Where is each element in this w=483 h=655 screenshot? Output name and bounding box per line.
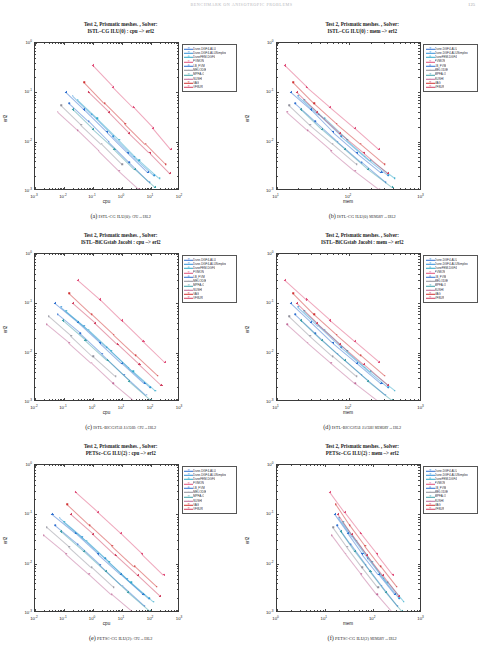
legend-item[interactable]: +VF8UR [184, 85, 234, 89]
x-tick-label: 101 [118, 404, 125, 410]
data-point [113, 587, 115, 589]
trend-line [133, 107, 153, 128]
y-tick-label: 10-2 [14, 137, 32, 143]
plot-area-d [276, 253, 421, 401]
data-point [378, 587, 380, 589]
plot-area-f [276, 464, 421, 612]
data-point [92, 533, 94, 535]
trend-line [90, 525, 113, 546]
data-point [149, 152, 151, 154]
y-tick-right [176, 303, 178, 304]
data-point [384, 375, 386, 377]
trend-line [131, 582, 154, 602]
x-tick-label: 102 [345, 193, 352, 199]
trend-line [134, 566, 156, 587]
data-point [97, 511, 99, 513]
data-point [354, 340, 356, 342]
y-tick-right [418, 564, 420, 565]
caption-text: ISTL-BiCGstab Jacobi memory→erl2 [330, 425, 401, 430]
legend-item[interactable]: +VF8UR [426, 85, 476, 89]
data-point [43, 534, 45, 536]
data-point [336, 525, 338, 527]
caption-tag: (e) [89, 634, 96, 641]
data-point [300, 108, 302, 110]
x-tick-label: 102 [176, 193, 183, 199]
y-tick-right [176, 465, 178, 466]
legend-item[interactable]: +VF8UR [184, 507, 234, 511]
y-tick-right [176, 514, 178, 515]
legend-item-label: VF8UR [193, 507, 203, 511]
data-point [331, 362, 333, 364]
y-tick-label: 100 [14, 39, 32, 45]
panel-title-e: Test 2, Prismatic meshes. , Solver:PETSc… [0, 443, 242, 458]
y-tick-label: 100 [14, 250, 32, 256]
data-point [332, 131, 334, 133]
caption-text: ISTL-CG ILU(0) memory→erl2 [336, 214, 396, 219]
x-tick [349, 187, 350, 189]
y-tick [35, 353, 37, 354]
y-tick-label: 10-2 [256, 137, 274, 143]
plot-area-a [34, 42, 179, 190]
y-tick-label: 10-3 [256, 398, 274, 404]
data-point [332, 143, 334, 145]
x-tick-top [373, 465, 374, 467]
y-tick-label: 100 [256, 250, 274, 256]
trend-line [46, 324, 69, 343]
data-point [367, 380, 369, 382]
x-tick [93, 398, 94, 400]
data-point [128, 380, 130, 382]
y-tick-right [418, 43, 420, 44]
legend-symbol: + [429, 86, 432, 89]
x-tick [151, 187, 152, 189]
data-point [361, 573, 363, 575]
data-point [128, 132, 130, 134]
legend-item[interactable]: +VF8UR [426, 296, 476, 300]
figure-caption-b: (b) ISTL-CG ILU(0) memory→erl2 [242, 212, 483, 219]
x-tick-label: 101 [118, 615, 125, 621]
trend-line [100, 299, 122, 320]
y-tick [35, 254, 37, 255]
data-point [152, 127, 154, 129]
legend-item[interactable]: +VF8UR [184, 296, 234, 300]
data-point [401, 610, 403, 612]
plot-legend-a: +Dune-DGF4-ALU+Dune-DGF4-ALUSimplexxDune… [182, 44, 237, 92]
legend-marker-icon: + [426, 85, 435, 89]
data-point [289, 315, 291, 317]
data-point [151, 399, 153, 401]
x-tick-top [64, 43, 65, 45]
y-tick [35, 303, 37, 304]
data-point [57, 111, 59, 113]
y-tick [277, 142, 279, 143]
data-point [378, 361, 380, 363]
data-point [284, 64, 286, 66]
y-tick-right [418, 465, 420, 466]
data-point [112, 86, 114, 88]
legend-item[interactable]: +VF8UR [426, 507, 476, 511]
trend-line [78, 130, 99, 151]
panel-title-line2: PETSc–CG ILU(2) : cpu –> erl2 [0, 450, 242, 457]
data-point [321, 128, 323, 130]
running-head: BENCHMARK ON ANISOTROPIC PROBLEMS [0, 2, 483, 7]
y-tick-right [418, 254, 420, 255]
x-tick [122, 187, 123, 189]
panel-title-line1: Test 2, Prismatic meshes. , Solver: [84, 21, 158, 27]
x-tick-label: 10-1 [59, 615, 67, 621]
data-point [290, 91, 292, 93]
data-point [77, 99, 79, 101]
data-point [68, 293, 70, 295]
x-tick-top [122, 43, 123, 45]
data-point [111, 593, 113, 595]
data-point [88, 329, 90, 331]
panel-title-line2: ISTL–CG ILU(0) : mem –> erl2 [242, 28, 483, 35]
x-tick [93, 609, 94, 611]
data-point [121, 163, 123, 165]
x-tick [93, 187, 94, 189]
trend-line [92, 363, 114, 384]
data-point [354, 550, 356, 552]
trend-line [92, 114, 114, 136]
trend-line [69, 103, 89, 121]
data-point [296, 302, 298, 304]
trend-line [78, 280, 101, 300]
x-tick-label: 103 [417, 404, 424, 410]
data-point [336, 334, 338, 336]
